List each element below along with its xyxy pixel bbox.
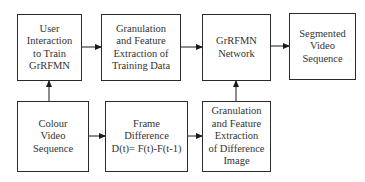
node-segmented-video: Segmented Video Sequence [289, 13, 356, 80]
node-line: Sequence [302, 53, 342, 66]
node-line: Segmented [299, 28, 346, 41]
node-line: Granulation [116, 23, 166, 36]
node-line: Granulation [211, 105, 261, 118]
node-line: Extraction [215, 130, 259, 143]
node-line: D(t)= F(t)-F(t-1) [112, 143, 182, 156]
node-line: Sequence [33, 143, 73, 156]
node-line: and Feature [212, 118, 261, 131]
node-line: GrRFMN [216, 35, 257, 48]
node-granulation-difference: Granulation and Feature Extraction of Di… [202, 101, 271, 172]
node-line: Image [223, 155, 249, 168]
node-line: to Train [33, 48, 66, 61]
node-colour-video: Colour Video Sequence [17, 101, 89, 172]
node-line: Colour [38, 118, 67, 131]
node-line: of Difference [208, 143, 264, 156]
node-grrfmn-network: GrRFMN Network [202, 14, 271, 81]
node-line: Video [40, 130, 65, 143]
node-frame-difference: Frame Difference D(t)= F(t)-F(t-1) [105, 101, 188, 172]
node-line: GrRFMN [29, 60, 70, 73]
node-line: User [40, 23, 60, 36]
node-line: Interaction [27, 35, 72, 48]
node-line: Network [218, 48, 255, 61]
node-user-interaction: User Interaction to Train GrRFMN [17, 14, 82, 81]
node-line: Extraction of [113, 48, 168, 61]
node-line: Video [310, 40, 335, 53]
node-line: Difference [124, 130, 169, 143]
node-line: Training Data [112, 60, 170, 73]
node-line: Frame [133, 118, 160, 131]
node-line: and Feature [116, 35, 165, 48]
node-granulation-training: Granulation and Feature Extraction of Tr… [101, 14, 181, 81]
